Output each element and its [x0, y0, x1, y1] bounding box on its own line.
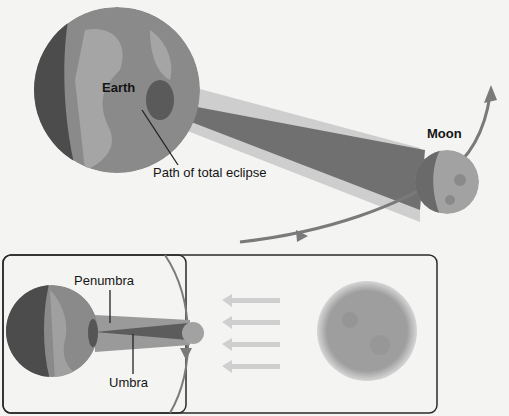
penumbra-label: Penumbra	[74, 273, 134, 288]
eclipse-diagram	[0, 0, 509, 416]
umbra-label: Umbra	[109, 375, 148, 390]
moon-label: Moon	[427, 126, 462, 141]
sun-rays	[222, 294, 280, 373]
inset-moon	[182, 322, 204, 344]
path-of-total-eclipse-label: Path of total eclipse	[153, 165, 266, 180]
inset-far-moon	[317, 281, 417, 381]
eclipse-spot	[146, 80, 174, 120]
earth-label: Earth	[102, 80, 135, 95]
orbit-arrow-top	[484, 85, 497, 103]
inset-earth	[0, 280, 98, 380]
inset-orbit-arrow	[180, 348, 192, 360]
moon	[415, 150, 479, 215]
